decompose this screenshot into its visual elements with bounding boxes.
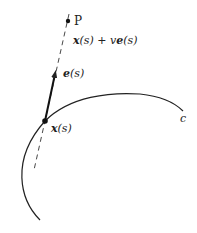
label-curve-c: c xyxy=(180,112,186,125)
label-line-equation: x(s) + ve(s) xyxy=(72,34,137,47)
point-x-s xyxy=(42,118,48,124)
label-P: P xyxy=(74,14,82,28)
label-base-point: x(s) xyxy=(50,122,72,135)
diagram-canvas: P x(s) + ve(s) e(s) x(s) c xyxy=(0,0,197,233)
label-vector-e: e(s) xyxy=(63,67,84,80)
point-P xyxy=(66,19,70,23)
